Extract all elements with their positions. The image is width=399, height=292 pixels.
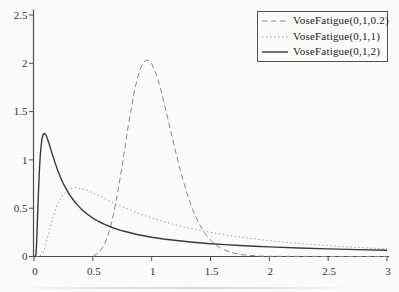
legend-item-dotted: VoseFatigue(0,1,1) — [258, 29, 387, 45]
x-tick-label: 2.5 — [322, 265, 336, 277]
x-tick-label: 2 — [268, 265, 274, 277]
legend: VoseFatigue(0,1,0.2) VoseFatigue(0,1,1) … — [257, 11, 388, 62]
y-tick-label: 2.5 — [14, 9, 28, 21]
y-tick-label: 0.5 — [14, 202, 28, 214]
curve-dashed — [93, 60, 387, 256]
legend-label-dotted: VoseFatigue(0,1,1) — [293, 31, 380, 43]
scan-artifact — [12, 287, 362, 289]
x-tick-label: 0.5 — [87, 265, 101, 277]
y-tick-label: 0 — [22, 250, 28, 262]
y-tick-label: 1 — [22, 154, 28, 166]
x-tick-label: 0 — [32, 265, 38, 277]
y-tick-label: 2 — [22, 57, 28, 69]
curve-dotted — [36, 188, 387, 257]
x-tick-label: 1.5 — [205, 265, 219, 277]
legend-item-dashed: VoseFatigue(0,1,0.2) — [258, 13, 387, 29]
solid-line-icon — [262, 47, 288, 57]
y-tick-label: 1.5 — [14, 105, 28, 117]
x-tick-label: 1 — [150, 265, 156, 277]
legend-label-dashed: VoseFatigue(0,1,0.2) — [293, 15, 389, 27]
dotted-line-icon — [262, 32, 288, 42]
legend-label-solid: VoseFatigue(0,1,2) — [293, 46, 380, 58]
x-tick-label: 3 — [385, 265, 391, 277]
dashed-line-icon — [262, 16, 288, 26]
fatigue-distribution-figure: 00.511.522.500.511.522.53 VoseFatigue(0,… — [0, 0, 399, 292]
legend-item-solid: VoseFatigue(0,1,2) — [258, 44, 387, 60]
curve-solid — [34, 134, 387, 257]
